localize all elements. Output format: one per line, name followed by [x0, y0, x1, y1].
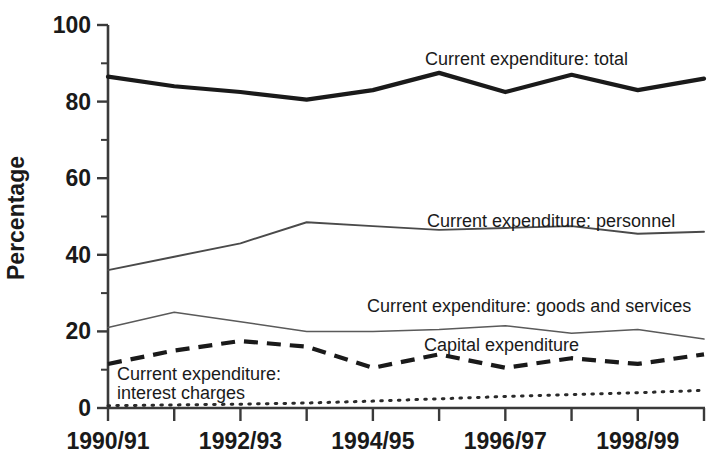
y-tick-label: 60 — [65, 165, 91, 191]
x-tick-label: 1990/91 — [66, 428, 149, 454]
y-tick-label: 20 — [65, 318, 91, 344]
x-tick-label: 1998/99 — [596, 428, 679, 454]
x-tick-label: 1992/93 — [199, 428, 282, 454]
line-chart: 020406080100 1990/911992/931994/951996/9… — [0, 0, 728, 472]
y-tick-label: 40 — [65, 242, 91, 268]
y-axis-title: Percentage — [3, 156, 29, 280]
x-tick-label: 1994/95 — [331, 428, 414, 454]
y-tick-label: 0 — [78, 395, 91, 421]
chart-container: 020406080100 1990/911992/931994/951996/9… — [0, 0, 728, 472]
y-tick-label: 80 — [65, 89, 91, 115]
series-label-total: Current expenditure: total — [425, 49, 628, 69]
series-label-personnel: Current expenditure: personnel — [427, 211, 675, 231]
series-label-interest-charges-line1: Current expenditure: — [117, 364, 281, 384]
series-label-interest-charges-line2: interest charges — [117, 383, 245, 403]
series-label-capital-expenditure: Capital expenditure — [424, 335, 579, 355]
x-tick-label: 1996/97 — [464, 428, 547, 454]
series-label-goods-and-services: Current expenditure: goods and services — [367, 296, 691, 316]
y-tick-label: 100 — [53, 12, 91, 38]
